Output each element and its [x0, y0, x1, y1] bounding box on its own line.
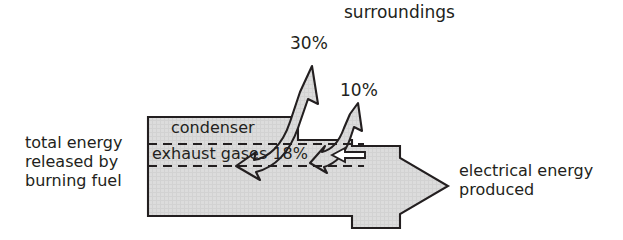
- label-total-energy-input-line1: total energy: [25, 134, 122, 153]
- label-exhaust-gases: exhaust gases 18%: [152, 145, 308, 164]
- label-surroundings: surroundings: [344, 2, 455, 22]
- label-other-losses-percent: 10%: [340, 80, 378, 100]
- label-electrical-energy-output-line1: electrical energy: [459, 162, 593, 181]
- energy-flow-diagram: surroundings 30% 10% condenser exhaust g…: [0, 0, 623, 240]
- label-electrical-energy-output-line2: produced: [459, 181, 593, 200]
- label-condenser-percent: 30%: [290, 33, 328, 53]
- label-total-energy-input-line2: released by: [25, 153, 122, 172]
- label-electrical-energy-output: electrical energy produced: [459, 162, 593, 200]
- label-total-energy-input: total energy released by burning fuel: [25, 134, 122, 191]
- label-condenser: condenser: [171, 119, 255, 138]
- label-total-energy-input-line3: burning fuel: [25, 172, 122, 191]
